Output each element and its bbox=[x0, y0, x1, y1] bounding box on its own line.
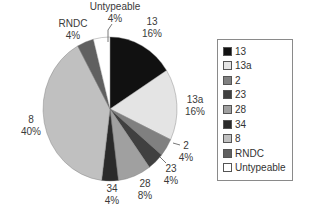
slice-label-percent: 4% bbox=[179, 152, 194, 163]
legend-label: 13 bbox=[235, 46, 246, 57]
legend-swatch bbox=[223, 134, 232, 143]
slice-label-name: 34 bbox=[106, 183, 118, 194]
slice-label-percent: 40% bbox=[21, 126, 41, 137]
legend-label: 28 bbox=[235, 104, 246, 115]
legend-item: 13 bbox=[223, 45, 246, 57]
legend-item: 23 bbox=[223, 89, 246, 101]
legend-swatch bbox=[223, 90, 232, 99]
legend-item: 28 bbox=[223, 103, 246, 115]
legend-swatch bbox=[223, 61, 232, 70]
slice-label-percent: 16% bbox=[142, 28, 162, 39]
legend-swatch bbox=[223, 76, 232, 85]
legend-label: Untypeable bbox=[235, 162, 286, 173]
pie-slices bbox=[43, 37, 177, 181]
slice-label-name: 8 bbox=[28, 114, 34, 125]
slice-label-name: Untypeable bbox=[90, 1, 141, 12]
slice-label-name: 13 bbox=[146, 16, 158, 27]
legend-label: 34 bbox=[235, 119, 246, 130]
legend-swatch bbox=[223, 120, 232, 129]
legend-item: 13a bbox=[223, 60, 252, 72]
slice-label-percent: 4% bbox=[105, 195, 120, 206]
legend-item: Untypeable bbox=[223, 162, 286, 174]
slice-label-percent: 8% bbox=[138, 190, 153, 201]
legend-swatch bbox=[223, 105, 232, 114]
slice-label-name: 23 bbox=[165, 163, 177, 174]
slice-label-name: RNDC bbox=[59, 18, 88, 29]
legend-item: RNDC bbox=[223, 147, 264, 159]
slice-label-percent: 4% bbox=[108, 13, 123, 24]
legend: 1313a22328348RNDCUntypeable bbox=[217, 39, 293, 181]
legend-label: 8 bbox=[235, 133, 241, 144]
leader-line-2 bbox=[173, 143, 180, 145]
legend-swatch bbox=[223, 149, 232, 158]
slice-label-name: 2 bbox=[183, 140, 189, 151]
slice-label-name: 28 bbox=[139, 178, 151, 189]
legend-label: RNDC bbox=[235, 148, 264, 159]
legend-item: 8 bbox=[223, 133, 241, 145]
slice-label-percent: 4% bbox=[66, 30, 81, 41]
legend-label: 2 bbox=[235, 75, 241, 86]
legend-swatch bbox=[223, 47, 232, 56]
slice-label-percent: 16% bbox=[185, 106, 205, 117]
legend-item: 2 bbox=[223, 74, 241, 86]
legend-swatch bbox=[223, 163, 232, 172]
legend-item: 34 bbox=[223, 118, 246, 130]
legend-label: 23 bbox=[235, 89, 246, 100]
legend-label: 13a bbox=[235, 60, 252, 71]
slice-label-name: 13a bbox=[187, 94, 204, 105]
slice-label-percent: 4% bbox=[164, 175, 179, 186]
